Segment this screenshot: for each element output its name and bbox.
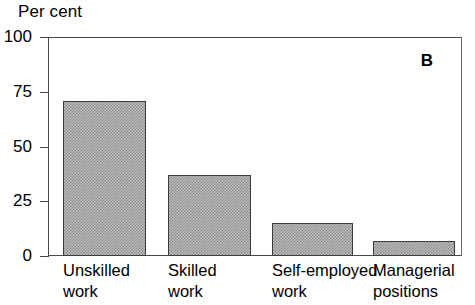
x-axis-label-line-2: work bbox=[272, 281, 377, 302]
x-axis-label-line-2: work bbox=[63, 281, 130, 302]
panel-label: B bbox=[421, 52, 433, 70]
y-axis-title: Per cent bbox=[18, 2, 82, 22]
y-axis-tick-mark bbox=[40, 201, 49, 202]
x-axis-label: Unskilledwork bbox=[63, 260, 130, 302]
bar bbox=[63, 101, 146, 256]
x-axis-label-line-1: Unskilled bbox=[63, 261, 130, 279]
x-axis-label-line-2: positions bbox=[373, 281, 455, 302]
y-axis-tick-label: 50 bbox=[13, 138, 32, 155]
bar bbox=[373, 241, 455, 256]
bar-chart: Per cent B 0255075100 UnskilledworkSkill… bbox=[0, 0, 475, 305]
y-axis-tick-label: 25 bbox=[13, 192, 32, 209]
y-axis-tick-mark bbox=[40, 92, 49, 93]
bar bbox=[168, 175, 251, 256]
y-axis-tick-mark bbox=[40, 147, 49, 148]
x-axis-label-line-2: work bbox=[168, 281, 217, 302]
y-axis-tick-label: 75 bbox=[13, 83, 32, 100]
y-axis-tick-mark bbox=[40, 256, 49, 257]
y-axis-tick-label: 100 bbox=[4, 28, 32, 45]
bar bbox=[272, 223, 353, 256]
y-axis-tick-label: 0 bbox=[23, 247, 32, 264]
x-axis-label-line-1: Self-employed bbox=[272, 261, 377, 279]
x-axis-label: Self-employedwork bbox=[272, 260, 377, 302]
x-axis-label-line-1: Managerial bbox=[373, 261, 455, 279]
x-axis-label: Skilledwork bbox=[168, 260, 217, 302]
x-axis-label: Managerialpositions bbox=[373, 260, 455, 302]
x-axis-label-line-1: Skilled bbox=[168, 261, 217, 279]
y-axis-tick-mark bbox=[40, 37, 49, 38]
